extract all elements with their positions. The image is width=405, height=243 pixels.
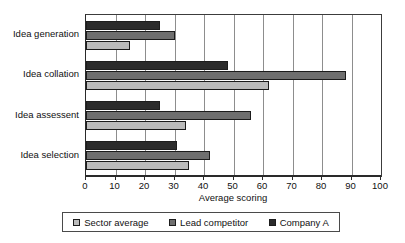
x-axis-tick-label: 90 xyxy=(345,180,356,191)
x-axis-tick-label: 0 xyxy=(82,180,87,191)
x-axis-tick-label: 30 xyxy=(168,180,179,191)
bar xyxy=(86,31,175,40)
bar xyxy=(86,81,269,90)
bar-group xyxy=(86,55,381,95)
category-label: Idea collation xyxy=(0,68,79,79)
x-axis-tick-label: 100 xyxy=(372,180,388,191)
bar xyxy=(86,61,228,70)
legend-swatch-icon xyxy=(269,219,276,226)
x-axis-tick-label: 20 xyxy=(139,180,150,191)
x-axis-title: Average scoring xyxy=(85,192,381,203)
bar xyxy=(86,101,160,110)
bar-group xyxy=(86,96,381,136)
x-axis-tick-label: 60 xyxy=(257,180,268,191)
category-label: Idea assessent xyxy=(0,109,79,120)
bar xyxy=(86,161,189,170)
legend-item[interactable]: Lead competitor xyxy=(169,217,248,228)
x-axis-tick-label: 10 xyxy=(109,180,120,191)
legend-item[interactable]: Company A xyxy=(269,217,329,228)
x-axis-tick-label: 50 xyxy=(227,180,238,191)
x-axis-tick-label: 70 xyxy=(286,180,297,191)
legend-swatch-icon xyxy=(73,219,80,226)
bar xyxy=(86,151,210,160)
category-label: Idea selection xyxy=(0,149,79,160)
bar xyxy=(86,41,130,50)
category-label: Idea generation xyxy=(0,28,79,39)
plot-area xyxy=(85,14,382,177)
x-axis-tick-label: 80 xyxy=(316,180,327,191)
bar xyxy=(86,71,346,80)
bar-group xyxy=(86,136,381,176)
x-axis-tick-label: 40 xyxy=(198,180,209,191)
legend-swatch-icon xyxy=(169,219,176,226)
legend-item[interactable]: Sector average xyxy=(73,217,148,228)
legend-label: Lead competitor xyxy=(180,217,248,228)
chart-legend: Sector averageLead competitorCompany A xyxy=(62,212,340,232)
category-axis-labels: Idea generationIdea collationIdea assess… xyxy=(0,14,82,175)
bar xyxy=(86,111,251,120)
legend-label: Company A xyxy=(280,217,329,228)
bar-group xyxy=(86,15,381,55)
bar-chart: Idea generationIdea collationIdea assess… xyxy=(0,0,405,243)
bar xyxy=(86,141,177,150)
bar xyxy=(86,21,160,30)
legend-label: Sector average xyxy=(84,217,148,228)
bar xyxy=(86,121,186,130)
